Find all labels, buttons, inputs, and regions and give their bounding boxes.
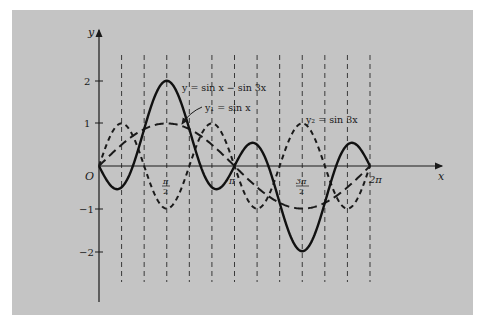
x-tick-3pi-half: 3π 2: [296, 177, 309, 196]
x-tick-pi-half: π 2: [162, 177, 170, 196]
svg-text:2: 2: [299, 187, 304, 196]
label-sum-curve: y = sin x − sin 3x: [181, 82, 267, 93]
x-tick-2pi: 2π: [368, 174, 382, 185]
x-tick-pi: π: [228, 176, 236, 186]
label-y2-curve: y₂ = sin 3x: [305, 114, 358, 125]
y-tick-m1: −1: [79, 204, 94, 215]
label-y1-curve: y₁ = sin x: [204, 102, 251, 113]
y-tick-2: 2: [84, 76, 90, 87]
y-axis-label: y: [87, 26, 95, 39]
y-tick-1: 1: [84, 118, 90, 129]
svg-text:π: π: [162, 177, 169, 186]
y-tick-m2: −2: [79, 247, 94, 258]
plot: y x O 2 1 −1 −2 π 2 π 3π 2 2π y = sin x …: [0, 0, 484, 325]
origin-label: O: [85, 170, 94, 183]
svg-text:2: 2: [163, 187, 168, 196]
svg-text:3π: 3π: [296, 177, 307, 186]
x-axis-label: x: [438, 170, 445, 183]
